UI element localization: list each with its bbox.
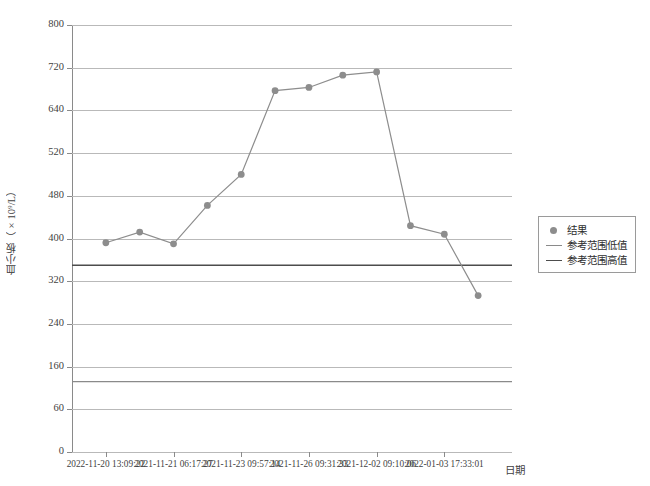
data-point-marker[interactable] (102, 239, 109, 246)
y-tick-label: 640 (48, 104, 64, 115)
platelet-trend-chart: 血小板（×10⁹/L） 0601602403204004805206407208… (0, 0, 650, 486)
y-tick-label: 320 (48, 275, 64, 286)
data-point-marker[interactable] (204, 202, 211, 209)
circle-marker-icon (550, 227, 557, 234)
line-swatch-icon (546, 260, 562, 261)
data-point-marker[interactable] (272, 87, 279, 94)
data-point-marker[interactable] (306, 84, 313, 91)
legend-item-label: 参考范围高值 (567, 252, 627, 267)
legend-item[interactable]: 参考范围低值 (545, 237, 627, 252)
legend-item-label: 参考范围低值 (567, 237, 627, 252)
x-tick-label: 2021-11-23 09:57:14 (202, 460, 280, 469)
data-point-marker[interactable] (170, 240, 177, 247)
legend-item-label: 结果 (567, 222, 587, 237)
gridline (72, 452, 512, 453)
data-point-marker[interactable] (339, 72, 346, 79)
y-tick-label: 160 (48, 361, 64, 372)
x-axis-title: 日期 (505, 462, 525, 477)
data-point-marker[interactable] (441, 231, 448, 238)
x-tick-label: 2022-01-03 17:33:01 (405, 460, 484, 469)
x-tick-mark (444, 452, 445, 457)
y-tick-label: 720 (48, 62, 64, 73)
y-tick-label: 0 (59, 446, 64, 457)
y-axis-title: 血小板（×10⁹/L） (4, 185, 20, 275)
legend-item[interactable]: 结果 (545, 222, 627, 237)
x-tick-mark (106, 452, 107, 457)
data-point-marker[interactable] (373, 69, 380, 76)
y-tick-label: 520 (48, 147, 64, 158)
legend-marker-dot-icon (545, 224, 563, 236)
legend-line-icon (545, 239, 563, 251)
line-swatch-icon (546, 245, 562, 246)
x-tick-mark (309, 452, 310, 457)
series-layer (72, 25, 512, 452)
x-tick-mark (377, 452, 378, 457)
data-point-marker[interactable] (136, 229, 143, 236)
plot-area (72, 25, 512, 452)
legend-line-icon (545, 254, 563, 266)
x-tick-label: 2022-11-20 13:09:22 (67, 460, 145, 469)
y-tick-label: 400 (48, 233, 64, 244)
result-line (106, 72, 478, 296)
data-point-marker[interactable] (238, 171, 245, 178)
x-tick-mark (241, 452, 242, 457)
y-tick-label: 60 (54, 403, 65, 414)
reference-lines (72, 265, 512, 381)
x-tick-label: 2021-11-21 06:17:27 (134, 460, 212, 469)
chart-legend: 结果参考范围低值参考范围高值 (538, 216, 636, 273)
y-tick-label: 800 (48, 19, 64, 30)
y-tick-label: 480 (48, 190, 64, 201)
data-point-marker[interactable] (475, 292, 482, 299)
legend-item[interactable]: 参考范围高值 (545, 252, 627, 267)
data-point-marker[interactable] (407, 222, 414, 229)
x-tick-mark (174, 452, 175, 457)
y-tick-label: 240 (48, 318, 64, 329)
